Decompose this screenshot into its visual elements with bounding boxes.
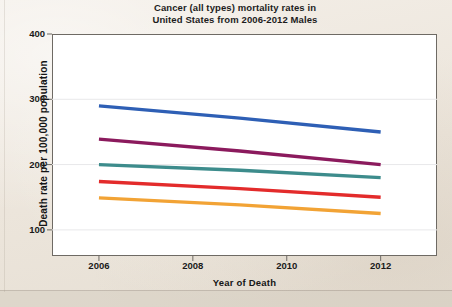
- chart-title-line-2: United States from 2006-2012 Males: [60, 14, 410, 26]
- page-bottom-margin: [0, 291, 452, 307]
- chart-title-line-1: Cancer (all types) mortality rates in: [60, 2, 410, 14]
- series-line-5: [99, 198, 381, 214]
- series-line-2: [99, 139, 381, 164]
- y-tick-label-300: 300: [11, 93, 45, 104]
- series-line-1: [99, 106, 381, 132]
- plot-canvas: [52, 34, 437, 256]
- x-axis-label: Year of Death: [52, 277, 437, 288]
- x-tick-label-2006: 2006: [79, 260, 119, 271]
- page-edge-left-line: [4, 0, 5, 292]
- page-edge-line: [0, 290, 452, 291]
- chart-title: Cancer (all types) mortality rates in Un…: [60, 2, 410, 26]
- scanned-chart-page: Cancer (all types) mortality rates in Un…: [0, 0, 452, 307]
- y-tick-label-200: 200: [11, 159, 45, 170]
- series-line-4: [99, 182, 381, 198]
- series-line-3: [99, 165, 381, 178]
- y-tick-label-400: 400: [11, 28, 45, 39]
- x-tick-label-2008: 2008: [173, 260, 213, 271]
- y-tick-label-100: 100: [11, 224, 45, 235]
- series-lines: [99, 106, 381, 214]
- x-tick-label-2012: 2012: [361, 260, 401, 271]
- x-tick-label-2010: 2010: [267, 260, 307, 271]
